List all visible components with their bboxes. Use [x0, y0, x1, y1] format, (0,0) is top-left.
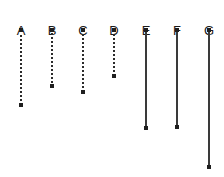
endpoint-dot-bottom-b	[50, 84, 54, 88]
endpoint-dot-top-f	[175, 28, 179, 32]
endpoint-dot-top-d	[112, 28, 116, 32]
endpoint-dot-top-g	[207, 28, 211, 32]
endpoint-dot-bottom-f	[175, 125, 179, 129]
line-segment-c	[82, 30, 84, 92]
line-segment-a	[20, 30, 22, 105]
endpoint-dot-bottom-g	[207, 165, 211, 169]
line-segment-e	[145, 30, 147, 128]
endpoint-dot-top-b	[50, 28, 54, 32]
endpoint-dot-bottom-d	[112, 74, 116, 78]
line-segment-d	[113, 30, 115, 76]
line-segment-g	[208, 30, 210, 167]
line-segment-f	[176, 30, 178, 127]
endpoint-dot-bottom-e	[144, 126, 148, 130]
endpoint-dot-top-a	[19, 28, 23, 32]
diagram-canvas: ABCDEFG	[0, 0, 224, 177]
line-segment-b	[51, 30, 53, 86]
endpoint-dot-top-e	[144, 28, 148, 32]
endpoint-dot-bottom-a	[19, 103, 23, 107]
endpoint-dot-bottom-c	[81, 90, 85, 94]
endpoint-dot-top-c	[81, 28, 85, 32]
